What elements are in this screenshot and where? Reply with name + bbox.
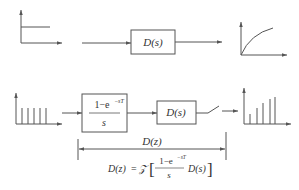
sampler-switch <box>196 106 219 113</box>
input-impulse-plot <box>16 93 62 124</box>
formula-close-bracket: ] <box>207 160 213 179</box>
top-ds-block: D(s) <box>131 30 175 54</box>
dz-formula: D(z) = 𝒵 [ 1−e −sT s D(s) ] <box>107 154 213 180</box>
dz-dimension: D(z) <box>78 132 226 160</box>
top-ds-label: D(s) <box>142 36 163 49</box>
output-continuous-plot <box>241 22 287 55</box>
formula-numerator: 1−e <box>159 156 173 166</box>
formula-exponent: −sT <box>177 154 187 160</box>
formula-equals: = <box>131 163 137 174</box>
zoh-numerator: 1−e <box>94 99 110 110</box>
formula-factor: D(s) <box>187 163 206 175</box>
formula-denominator: s <box>167 170 171 180</box>
zoh-block: 1−e −sT s <box>82 94 127 132</box>
bottom-ds-label: D(s) <box>165 106 186 119</box>
formula-open-bracket: [ <box>149 160 155 179</box>
zoh-denominator: s <box>102 117 106 128</box>
zoh-exponent: −sT <box>114 98 124 104</box>
input-step-plot <box>21 10 62 43</box>
bottom-ds-block: D(s) <box>157 101 196 124</box>
block-diagram: D(s) 1−e −sT s D(s) <box>0 0 299 190</box>
dz-label: D(z) <box>141 135 162 148</box>
formula-lhs: D(z) <box>107 163 126 175</box>
formula-z-operator: 𝒵 <box>138 163 149 175</box>
output-sampled-plot <box>244 88 291 124</box>
